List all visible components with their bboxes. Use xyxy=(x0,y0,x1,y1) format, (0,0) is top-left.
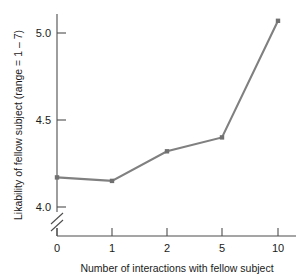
data-point-5 xyxy=(220,135,224,139)
data-point-0 xyxy=(55,175,59,179)
y-axis-title: Likability of fellow subject (range = 1 … xyxy=(12,30,24,220)
x-tick-label-10: 10 xyxy=(272,242,284,254)
data-point-1 xyxy=(110,179,114,183)
x-tick-label-2: 2 xyxy=(164,242,170,254)
y-tick-label-4.0: 4.0 xyxy=(36,201,51,213)
chart-canvas: 5.0 4.5 4.0 0 1 2 5 10 Number of interac… xyxy=(0,0,308,279)
data-marker-group xyxy=(55,19,280,183)
y-tick-label-4.5: 4.5 xyxy=(36,114,51,126)
x-axis-title: Number of interactions with fellow subje… xyxy=(80,262,273,274)
data-point-2 xyxy=(165,149,169,153)
data-point-10 xyxy=(276,19,280,23)
line-chart-figure: 5.0 4.5 4.0 0 1 2 5 10 Number of interac… xyxy=(0,0,308,279)
y-tick-label-5.0: 5.0 xyxy=(36,27,51,39)
x-tick-label-0: 0 xyxy=(54,242,60,254)
x-tick-label-5: 5 xyxy=(219,242,225,254)
data-line-likability xyxy=(57,21,278,181)
x-tick-label-1: 1 xyxy=(109,242,115,254)
